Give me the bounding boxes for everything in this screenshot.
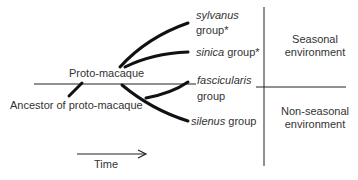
sinica-name: sinica — [196, 46, 224, 58]
diagram-lines — [0, 0, 358, 180]
nonseasonal-line2: environment — [273, 118, 357, 131]
proto-macaque-label: Proto-macaque — [69, 67, 144, 80]
fascicularis-name: fascicularis — [197, 74, 251, 87]
nonseasonal-line1: Non-seasonal — [273, 105, 357, 118]
seasonal-line1: Seasonal — [280, 33, 350, 46]
silenus-name: silenus — [191, 115, 225, 127]
sylvanus-name: sylvanus — [196, 9, 239, 22]
fascicularis-suffix: group — [197, 90, 225, 103]
sinica-suffix: group* — [227, 46, 259, 58]
silenus-label: silenus group — [191, 115, 256, 128]
sylvanus-branch — [120, 23, 188, 67]
ancestor-branch — [69, 83, 82, 96]
silenus-suffix: group — [228, 115, 256, 127]
nonseasonal-environment-label: Non-seasonal environment — [273, 105, 357, 131]
seasonal-line2: environment — [280, 46, 350, 59]
macaque-phylogeny-diagram: Proto-macaque Ancestor of proto-macaque … — [0, 0, 358, 180]
sinica-label: sinica group* — [196, 46, 260, 59]
sylvanus-suffix: group* — [196, 24, 228, 37]
time-label: Time — [94, 158, 118, 171]
seasonal-environment-label: Seasonal environment — [280, 33, 350, 59]
ancestor-label: Ancestor of proto-macaque — [10, 99, 143, 112]
